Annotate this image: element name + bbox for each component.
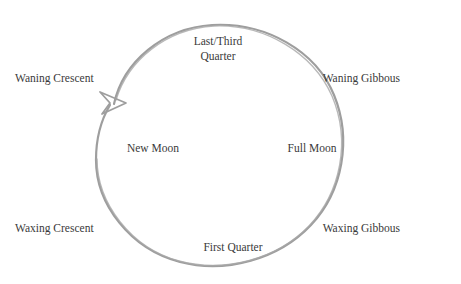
label-new-moon: New Moon xyxy=(103,141,203,156)
label-waxing-crescent: Waxing Crescent xyxy=(15,221,141,236)
label-full-moon: Full Moon xyxy=(262,141,362,156)
label-waning-gibbous: Waning Gibbous xyxy=(274,71,400,86)
counterclockwise-arrowhead-icon xyxy=(100,92,126,114)
moon-phase-diagram: Last/Third Quarter Waning Gibbous Full M… xyxy=(0,0,461,284)
label-first-quarter: First Quarter xyxy=(183,240,283,255)
label-last-third-quarter: Last/Third Quarter xyxy=(168,34,268,64)
label-waning-crescent: Waning Crescent xyxy=(15,71,141,86)
label-waxing-gibbous: Waxing Gibbous xyxy=(274,221,400,236)
